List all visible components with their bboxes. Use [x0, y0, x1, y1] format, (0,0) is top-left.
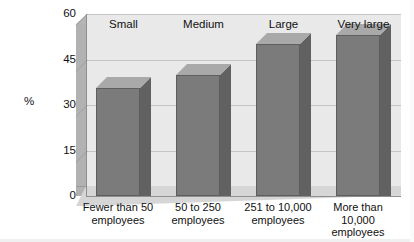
category-top-label-4: Very large: [321, 18, 407, 31]
x-axis-line: [86, 196, 401, 197]
category-bottom-label-1-line-1: Fewer than 50: [72, 201, 164, 214]
y-tick-15: 15: [42, 145, 76, 156]
category-top-label-2: Medium: [161, 18, 247, 31]
category-bottom-label-4-line-2: 10,000: [312, 214, 404, 227]
bar-2[interactable]: [176, 64, 231, 196]
gridline-60: [86, 14, 401, 15]
bar-1[interactable]: [96, 77, 151, 196]
y-axis-tick-labels: 604530150: [38, 0, 76, 242]
category-top-label-1: Small: [81, 18, 167, 31]
bar-4[interactable]: [336, 24, 391, 196]
bar-4-side-face: [380, 24, 391, 196]
category-bottom-label-3: 251 to 10,000employees: [232, 201, 324, 226]
category-bottom-label-1-line-2: employees: [72, 214, 164, 227]
category-bottom-label-3-line-1: 251 to 10,000: [232, 201, 324, 214]
bar-2-side-face: [220, 64, 231, 196]
category-bottom-label-1: Fewer than 50employees: [72, 201, 164, 226]
bar-4-front-face: [336, 35, 380, 196]
category-bottom-label-2: 50 to 250employees: [152, 201, 244, 226]
y-axis-line: [86, 14, 87, 197]
bar-3-front-face: [256, 44, 300, 196]
y-tick-30: 30: [42, 99, 76, 110]
y-tick-0: 0: [42, 190, 76, 201]
bar-1-front-face: [96, 88, 140, 196]
y-axis-title: %: [24, 95, 34, 107]
scan-edge-right: [410, 0, 414, 242]
category-top-label-3: Large: [241, 18, 327, 31]
bar-3-side-face: [300, 33, 311, 196]
y-tick-60: 60: [42, 8, 76, 19]
category-bottom-label-4-line-3: employees: [312, 226, 404, 239]
bar-1-side-face: [140, 77, 151, 196]
category-bottom-label-4-line-1: More than: [312, 201, 404, 214]
bar-3[interactable]: [256, 33, 311, 196]
bar-chart: 604530150 % SmallMediumLargeVery large F…: [0, 0, 414, 242]
category-bottom-label-3-line-2: employees: [232, 214, 324, 227]
category-bottom-label-2-line-2: employees: [152, 214, 244, 227]
bar-2-front-face: [176, 75, 220, 196]
y-tick-45: 45: [42, 54, 76, 65]
category-bottom-label-4: More than10,000employees: [312, 201, 404, 239]
category-bottom-label-2-line-1: 50 to 250: [152, 201, 244, 214]
